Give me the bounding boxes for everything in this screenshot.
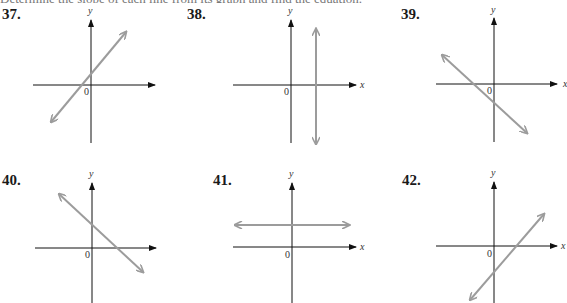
graph-40: y 0 xyxy=(35,168,156,303)
y-axis-label: y xyxy=(287,5,293,16)
x-axis-label: x xyxy=(359,79,365,90)
origin-label: 0 xyxy=(284,86,289,97)
plotted-line xyxy=(59,194,143,272)
graph-37: y 0 xyxy=(33,5,155,143)
origin-label: 0 xyxy=(285,249,290,260)
x-axis-label: x xyxy=(359,241,365,252)
y-axis-label: y xyxy=(490,167,496,178)
graph-39: y x 0 xyxy=(436,4,567,142)
graph-41: y x 0 xyxy=(233,168,365,303)
origin-label: 0 xyxy=(85,249,90,260)
y-axis-label: y xyxy=(490,4,496,15)
graph-42: y x 0 xyxy=(436,167,566,303)
y-axis-label: y xyxy=(288,168,294,179)
x-axis-label: x xyxy=(560,240,566,251)
graphs-canvas: y 0 y x 0 y x 0 y 0 y x 0 xyxy=(0,0,567,303)
x-axis-label: x xyxy=(562,78,567,89)
plotted-line xyxy=(442,55,527,133)
origin-label: 0 xyxy=(487,85,492,96)
origin-label: 0 xyxy=(487,248,492,259)
origin-label: 0 xyxy=(84,86,89,97)
plotted-line xyxy=(470,214,544,300)
y-axis-label: y xyxy=(88,168,94,179)
plotted-line xyxy=(51,32,126,122)
y-axis-label: y xyxy=(87,5,93,16)
graph-38: y x 0 xyxy=(233,5,365,144)
